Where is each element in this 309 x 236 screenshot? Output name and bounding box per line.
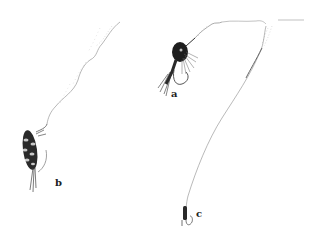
fly-c — [182, 206, 192, 226]
fly-b — [20, 124, 47, 192]
figure-label-c: c — [196, 209, 202, 219]
line-drawing — [0, 0, 309, 236]
illustration: a b c — [0, 0, 309, 236]
line-a — [195, 22, 222, 38]
line-c — [186, 26, 266, 212]
fly-a — [158, 38, 198, 96]
figure-label-a: a — [171, 89, 177, 99]
figure-label-b: b — [55, 178, 62, 188]
line-b — [47, 22, 120, 124]
